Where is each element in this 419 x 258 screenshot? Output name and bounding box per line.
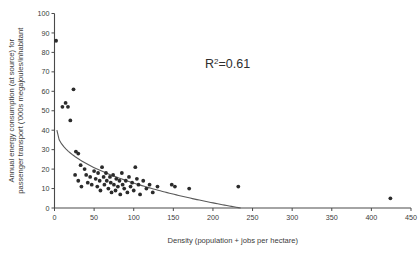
data-point: [114, 177, 118, 181]
data-point: [109, 181, 113, 185]
data-point: [236, 185, 240, 189]
data-point: [170, 183, 174, 187]
x-tick-label: 400: [365, 213, 377, 222]
data-point: [108, 175, 112, 179]
data-point: [145, 187, 149, 191]
y-tick-label: 90: [42, 29, 50, 38]
data-point: [138, 192, 142, 196]
data-point: [68, 119, 72, 123]
data-point: [148, 183, 152, 187]
r-squared-annotation: R2=0.61: [205, 57, 250, 72]
y-tick-label: 80: [42, 48, 50, 57]
data-point: [151, 191, 155, 195]
data-point: [141, 179, 145, 183]
x-tick-label: 450: [405, 213, 417, 222]
plot-area: 0102030405060708090100 05010015020025030…: [0, 0, 419, 258]
data-point: [120, 171, 124, 175]
x-axis-title: Density (population + jobs per hectare): [167, 236, 298, 245]
data-point: [112, 183, 116, 187]
data-point: [127, 175, 131, 179]
y-tick-label: 20: [42, 165, 50, 174]
data-point: [76, 179, 80, 183]
data-point: [98, 179, 102, 183]
data-point: [104, 171, 108, 175]
data-point: [111, 173, 115, 177]
data-point: [106, 187, 110, 191]
data-point: [83, 167, 87, 171]
data-point: [99, 189, 103, 193]
x-tick-label: 150: [167, 213, 179, 222]
data-point: [116, 185, 120, 189]
data-point: [121, 183, 125, 187]
data-point: [130, 181, 134, 185]
data-point: [118, 192, 122, 196]
y-tick-label: 100: [38, 9, 50, 18]
data-point: [129, 185, 133, 189]
y-tick-label: 70: [42, 67, 50, 76]
y-axis-ticks: 0102030405060708090100: [38, 9, 55, 213]
scatter-chart: 0102030405060708090100 05010015020025030…: [0, 0, 419, 258]
data-point: [61, 105, 65, 109]
data-point: [132, 189, 136, 193]
data-point: [86, 181, 90, 185]
x-tick-label: 100: [128, 213, 140, 222]
data-point: [156, 185, 160, 189]
data-point: [133, 165, 137, 169]
x-tick-label: 200: [207, 213, 219, 222]
data-point: [114, 189, 118, 193]
data-point: [79, 163, 83, 167]
data-point: [84, 173, 88, 177]
data-point: [110, 191, 114, 195]
y-tick-label: 50: [42, 106, 50, 115]
data-point: [124, 179, 128, 183]
x-tick-label: 250: [247, 213, 259, 222]
data-point: [94, 177, 98, 181]
data-point: [187, 187, 191, 191]
data-point: [96, 171, 100, 175]
data-point: [73, 173, 77, 177]
data-point: [389, 196, 393, 200]
y-tick-label: 30: [42, 145, 50, 154]
x-axis-ticks: 050100150200250300350400450: [53, 208, 418, 222]
y-tick-label: 40: [42, 126, 50, 135]
y-axis-title-line1: Annual energy consumption (at source) fo…: [7, 39, 16, 183]
y-axis-title-line2: passenger transport ('000s megajoules/in…: [16, 27, 25, 194]
data-point: [100, 165, 104, 169]
data-point: [64, 101, 68, 105]
data-point: [72, 87, 76, 91]
data-point: [118, 179, 122, 183]
data-point: [90, 183, 94, 187]
data-point: [122, 187, 126, 191]
data-point: [102, 175, 106, 179]
data-point: [80, 185, 84, 189]
data-point: [92, 169, 96, 173]
data-point: [66, 105, 70, 109]
y-tick-label: 0: [46, 204, 50, 213]
data-point: [105, 179, 109, 183]
x-tick-label: 300: [286, 213, 298, 222]
data-point: [103, 183, 107, 187]
data-point: [137, 183, 141, 187]
data-point: [125, 191, 129, 195]
y-tick-label: 60: [42, 87, 50, 96]
data-point: [135, 177, 139, 181]
y-tick-label: 10: [42, 184, 50, 193]
axes: [55, 14, 412, 209]
data-point: [76, 152, 80, 156]
x-tick-label: 0: [53, 213, 57, 222]
data-point: [88, 175, 92, 179]
data-point: [173, 185, 177, 189]
x-tick-label: 50: [90, 213, 98, 222]
data-point: [54, 39, 58, 43]
data-point: [95, 185, 99, 189]
x-tick-label: 350: [326, 213, 338, 222]
